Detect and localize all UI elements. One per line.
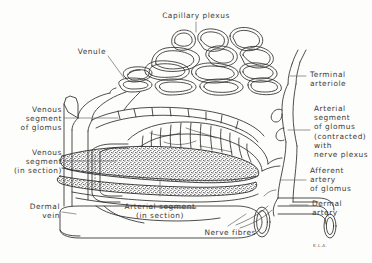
label-arterial-segment-in-section: Arterial segment (in section) [104,202,216,220]
anatomical-figure-glomus-body: Capillary plexus Venule Venous segment o… [0,0,372,263]
terminal-arteriole [288,50,306,84]
artist-signature: K.L.A. [313,243,327,248]
label-afferent-artery-of-glomus: Afferent artery of glomus [310,166,370,194]
afferent-artery-of-glomus [262,84,297,202]
arterial-segment-in-section [57,146,259,208]
label-capillary-plexus: Capillary plexus [152,11,240,20]
label-terminal-arteriole: Terminal arteriole [310,70,370,88]
label-arterial-segment-of-glomus: Arterial segment of glomus (contracted) … [314,104,372,159]
label-venous-segment-of-glomus: Venous segment of glomus [6,105,62,133]
label-dermal-vein: Dermal vein [6,202,60,220]
capillary-plexus [110,27,281,95]
label-dermal-artery: Dermal artery [312,199,370,217]
venous-segment-of-glomus [92,107,264,142]
label-nerve-fibres: Nerve fibres [186,228,256,237]
label-venule: Venule [48,47,106,56]
label-venous-segment-in-section: Venous segment (in section) [0,148,62,176]
